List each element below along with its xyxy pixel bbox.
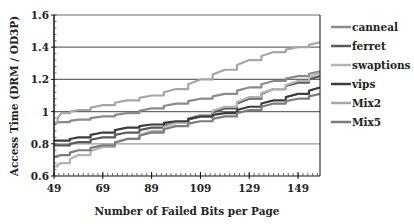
legend-label: Mix5 [352, 116, 381, 128]
legend-item-mix2: Mix2 [331, 97, 381, 109]
y-tick-label: 1.4 [31, 41, 49, 53]
series-line-mix2 [54, 42, 320, 123]
y-tick-label: 1 [42, 106, 49, 118]
y-tick-label: 0.6 [31, 170, 49, 182]
x-axis-ticks: 496989109129149 [47, 172, 318, 194]
x-tick-label: 109 [189, 182, 211, 194]
legend-label: swaptions [352, 59, 411, 71]
legend-label: Mix2 [352, 97, 381, 109]
legend-item-vips: vips [331, 78, 375, 90]
y-axis-title: Access Time (DRM / OD3P) [8, 16, 20, 177]
x-tick-label: 149 [287, 182, 309, 194]
legend-item-canneal: canneal [331, 21, 398, 33]
y-tick-label: 1.2 [31, 73, 49, 85]
series-line-swaptions [54, 73, 320, 166]
y-tick-label: 0.8 [31, 138, 49, 150]
series-lines [54, 42, 320, 166]
x-tick-label: 89 [144, 182, 159, 194]
legend-item-swaptions: swaptions [331, 59, 411, 71]
axes [54, 15, 320, 176]
x-tick-label: 49 [47, 182, 62, 194]
legend-item-mix5: Mix5 [331, 116, 381, 128]
legend-label: ferret [352, 40, 386, 52]
x-axis-title: Number of Failed Bits per Page [95, 205, 280, 217]
legend-label: canneal [352, 21, 398, 33]
series-line-vips [54, 87, 320, 140]
x-tick-label: 129 [238, 182, 260, 194]
legend-label: vips [351, 78, 375, 90]
y-axis-ticks: 0.60.811.21.41.6 [31, 9, 57, 182]
legend: cannealferretswaptionsvipsMix2Mix5 [331, 21, 411, 128]
y-tick-label: 1.6 [31, 9, 49, 21]
line-chart: 496989109129149 0.60.811.21.41.6 Number … [0, 0, 414, 224]
x-tick-label: 69 [95, 182, 110, 194]
legend-item-ferret: ferret [331, 40, 386, 52]
gridlines [54, 15, 320, 144]
